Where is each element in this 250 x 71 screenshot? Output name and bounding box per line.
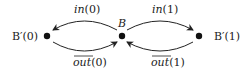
edge-in-1	[127, 21, 193, 30]
node-b	[119, 33, 125, 39]
label-in-1: in(1)	[152, 3, 178, 16]
label-b-prime-1: B′(1)	[214, 30, 240, 43]
edge-in-0	[53, 21, 117, 30]
edge-out-0	[53, 42, 117, 51]
label-b: B	[117, 17, 126, 30]
label-b-prime-0: B′(0)	[12, 30, 38, 43]
state-diagram: B′(0) B B′(1) in(0) out(0) in(1) out(1)	[0, 0, 250, 71]
node-b-prime-1	[196, 33, 202, 39]
node-b-prime-0	[44, 33, 50, 39]
edge-out-1	[127, 42, 193, 51]
label-out-1: out(1)	[151, 56, 185, 69]
label-in-0: in(0)	[74, 3, 100, 16]
label-out-0: out(0)	[73, 56, 107, 69]
